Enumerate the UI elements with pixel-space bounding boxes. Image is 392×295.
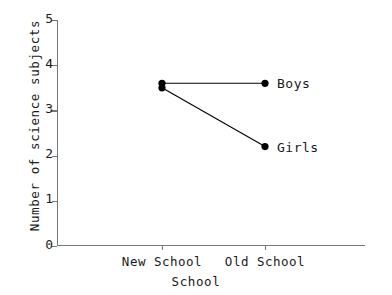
series-label-boys: Boys — [277, 76, 310, 91]
series-layer — [57, 20, 365, 246]
plot-area: 012345 New SchoolOld School BoysGirls — [57, 20, 365, 246]
x-axis-label: School — [0, 274, 392, 289]
data-point-marker — [261, 143, 268, 150]
y-tick-label: 5 — [45, 12, 53, 25]
y-axis-label: Number of science subjects — [27, 6, 42, 246]
data-point-marker — [158, 84, 165, 91]
y-tick-label: 4 — [45, 57, 53, 70]
y-tick-label: 1 — [45, 192, 53, 205]
series-line — [162, 88, 265, 147]
data-point-marker — [261, 80, 268, 87]
chart-figure: Number of science subjects School 012345… — [0, 0, 392, 295]
x-tick-label: Old School — [225, 254, 305, 269]
series-label-girls: Girls — [277, 139, 319, 154]
y-tick-label: 0 — [45, 238, 53, 251]
y-tick-label: 2 — [45, 147, 53, 160]
y-tick-label: 3 — [45, 102, 53, 115]
x-tick-label: New School — [122, 254, 202, 269]
